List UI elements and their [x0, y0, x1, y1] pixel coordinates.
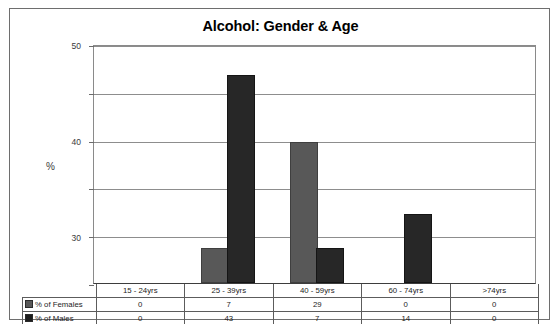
column-header-4: >74yrs — [450, 284, 539, 298]
table-row: % of Females072900 — [23, 298, 539, 312]
bar-females-2 — [290, 142, 318, 283]
column-header-2: 40 - 59yrs — [273, 284, 362, 298]
cell-r0-c1: 7 — [185, 298, 274, 312]
column-header-0: 15 - 24yrs — [96, 284, 185, 298]
cell-r0-c2: 29 — [273, 298, 362, 312]
gridline-50 — [94, 46, 535, 47]
legend-text: % of Females — [35, 300, 83, 309]
y-tick-40: 40 — [89, 94, 94, 95]
y-tick-10: 10 — [89, 237, 94, 238]
scan-edge — [0, 324, 560, 334]
cell-r0-c3: 0 — [362, 298, 451, 312]
cell-r0-c4: 0 — [450, 298, 539, 312]
column-header-3: 60 - 74yrs — [362, 284, 451, 298]
legend-text: % of Males — [35, 314, 74, 323]
bar-males-1 — [227, 75, 255, 283]
y-tick-label-50: 50 — [72, 41, 81, 51]
y-tick-50: 50 — [89, 46, 94, 47]
male-swatch-icon — [25, 314, 33, 322]
cell-r0-c0: 0 — [96, 298, 185, 312]
female-swatch-icon — [25, 300, 33, 308]
gridline-40 — [94, 94, 535, 95]
y-tick-30: 30 — [89, 142, 94, 143]
data-table: 15 - 24yrs25 - 39yrs40 - 59yrs60 - 74yrs… — [22, 284, 539, 326]
legend-label-females: % of Females — [23, 298, 97, 312]
bar-males-3 — [404, 214, 432, 283]
y-axis-title: % — [46, 161, 55, 172]
y-tick-label-40: 40 — [72, 137, 81, 147]
table-corner-cell — [23, 284, 97, 298]
table-header-row: 15 - 24yrs25 - 39yrs40 - 59yrs60 - 74yrs… — [23, 284, 539, 298]
page-title: Alcohol: Gender & Age — [10, 18, 551, 34]
y-tick-label-30: 30 — [72, 233, 81, 243]
plot-area: 01020304050 — [93, 45, 536, 284]
bar-females-1 — [201, 248, 229, 283]
chart-page-frame: Alcohol: Gender & Age % 01020304050 15 -… — [9, 8, 550, 320]
bar-males-2 — [316, 248, 344, 283]
y-tick-20: 20 — [89, 189, 94, 190]
column-header-1: 25 - 39yrs — [185, 284, 274, 298]
